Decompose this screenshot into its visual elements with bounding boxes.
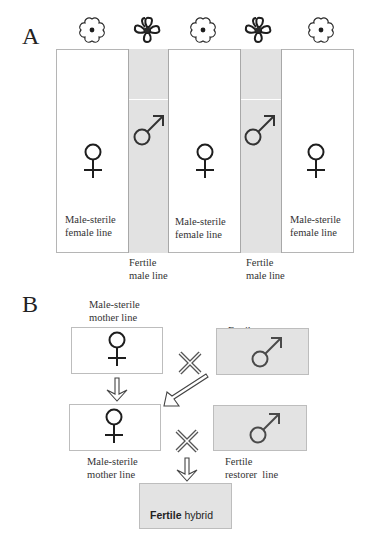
row-divider	[241, 99, 281, 100]
female-symbol-icon	[104, 328, 130, 370]
fertile-hybrid-box	[139, 483, 232, 529]
hybrid-rest-text: hybrid	[182, 509, 214, 521]
caption-line: Male-sterile	[87, 455, 138, 468]
caption-line: male line	[246, 269, 285, 282]
caption-line: Fertile	[225, 455, 278, 468]
caption-line: Male-sterile	[65, 213, 116, 226]
male-symbol-icon	[247, 411, 283, 447]
sterile-flower-icon	[77, 16, 107, 44]
caption-male-line-2: Fertile male line	[246, 256, 285, 282]
down-arrow-icon	[174, 457, 200, 483]
fertile-male-row-1	[128, 49, 169, 253]
caption-female-line-1: Male-sterile female line	[65, 213, 116, 239]
caption-line: mother line	[89, 311, 140, 324]
female-symbol-icon	[80, 140, 106, 182]
caption-line: Male-sterile	[290, 213, 341, 226]
down-arrow-icon	[104, 377, 130, 403]
panel-a-label: A	[22, 24, 39, 48]
cross-icon	[175, 429, 199, 453]
caption-line: restorer line	[225, 468, 278, 481]
caption-male-line-1: Fertile male line	[129, 256, 168, 282]
caption-line: Fertile	[246, 256, 285, 269]
sterile-flower-icon	[306, 16, 336, 44]
caption-line: Fertile	[129, 256, 168, 269]
female-symbol-icon	[192, 140, 218, 182]
row-divider	[129, 99, 168, 100]
male-symbol-icon	[242, 113, 278, 149]
caption-line: female line	[290, 226, 341, 239]
caption-line: female line	[65, 226, 116, 239]
caption-female-line-3: Male-sterile female line	[290, 213, 341, 239]
male-symbol-icon	[131, 113, 167, 149]
caption-female-line-2: Male-sterile female line	[175, 215, 226, 241]
female-symbol-icon	[101, 405, 127, 447]
caption-mother-line-bottom: Male-sterile mother line	[87, 455, 138, 481]
caption-line: female line	[175, 228, 226, 241]
sterile-flower-icon	[188, 16, 218, 44]
male-symbol-icon	[249, 335, 285, 371]
caption-line: Male-sterile	[175, 215, 226, 228]
caption-restorer-line: Fertile restorer line	[225, 455, 278, 481]
fertile-male-row-2	[240, 49, 282, 253]
fertile-flower-icon	[132, 16, 162, 44]
caption-line: male line	[129, 269, 168, 282]
caption-line: Male-sterile	[89, 298, 140, 311]
panel-b-label: B	[22, 292, 38, 316]
caption-line: mother line	[87, 468, 138, 481]
fertile-flower-icon	[243, 16, 273, 44]
fertile-hybrid-label: Fertile hybrid	[150, 509, 213, 521]
hybrid-bold-word: Fertile	[150, 509, 182, 521]
female-symbol-icon	[303, 140, 329, 182]
caption-mother-line-top: Male-sterile mother line	[89, 298, 140, 324]
diagonal-arrow-icon	[160, 372, 210, 410]
